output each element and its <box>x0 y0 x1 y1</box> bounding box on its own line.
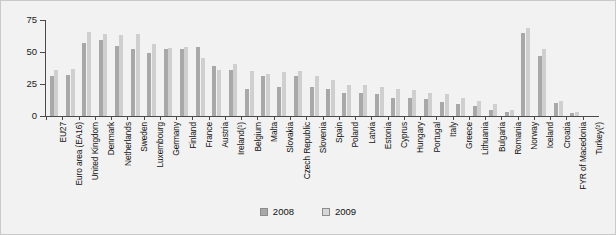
bar-2008[interactable] <box>570 113 574 116</box>
legend-label-2009: 2009 <box>335 206 356 217</box>
bar-2008[interactable] <box>82 43 86 116</box>
bar-2008[interactable] <box>391 98 395 116</box>
bar-2009[interactable] <box>477 101 481 116</box>
bar-2008[interactable] <box>521 33 525 116</box>
x-axis-category-label: France <box>204 122 214 147</box>
y-axis-tick <box>40 116 45 117</box>
x-axis-tick <box>127 116 128 120</box>
bar-2009[interactable] <box>347 85 351 116</box>
bar-2008[interactable] <box>489 110 493 116</box>
bar-2008[interactable] <box>164 49 168 116</box>
bar-2009[interactable] <box>298 71 302 116</box>
bar-2008[interactable] <box>375 94 379 116</box>
bar-2008[interactable] <box>212 66 216 116</box>
x-axis-category-label: Portugal <box>432 122 442 152</box>
bar-2008[interactable] <box>99 40 103 116</box>
bar-2008[interactable] <box>538 56 542 116</box>
bar-2009[interactable] <box>103 34 107 116</box>
bar-2009[interactable] <box>396 89 400 116</box>
bar-2009[interactable] <box>575 112 579 116</box>
y-axis-tick-label: 75 <box>1 14 37 25</box>
bar-2008[interactable] <box>131 49 135 116</box>
bar-2008[interactable] <box>473 106 477 116</box>
bar-2009[interactable] <box>266 74 270 116</box>
bar-2008[interactable] <box>294 76 298 116</box>
bar-2009[interactable] <box>201 58 205 116</box>
bar-2008[interactable] <box>440 102 444 116</box>
bar-2009[interactable] <box>445 94 449 116</box>
plot-area <box>46 20 599 116</box>
x-axis-category-label: Spain <box>334 122 344 143</box>
bar-2009[interactable] <box>526 28 530 116</box>
bar-2008[interactable] <box>66 75 70 116</box>
bar-2009[interactable] <box>233 64 237 116</box>
chart-legend: 2008 2009 <box>1 206 615 217</box>
bar-2008[interactable] <box>229 70 233 116</box>
y-axis-tick-label: 0 <box>1 110 37 121</box>
bar-2009[interactable] <box>250 71 254 116</box>
x-axis-category-label: FYR of Macedonia <box>578 122 588 190</box>
bar-2008[interactable] <box>261 76 265 116</box>
bar-2008[interactable] <box>424 99 428 116</box>
x-axis-tick <box>388 116 389 120</box>
bar-2009[interactable] <box>412 90 416 116</box>
x-axis-tick <box>339 116 340 120</box>
bar-2009[interactable] <box>510 110 514 116</box>
bar-2009[interactable] <box>54 70 58 116</box>
bar-2008[interactable] <box>115 46 119 116</box>
y-axis-tick <box>40 52 45 53</box>
bar-2008[interactable] <box>359 93 363 116</box>
x-axis-tick <box>355 116 356 120</box>
x-axis-category-label: Turkey(²) <box>594 122 604 155</box>
bar-2009[interactable] <box>380 87 384 116</box>
bar-2008[interactable] <box>505 112 509 116</box>
bar-2008[interactable] <box>326 89 330 116</box>
bar-2008[interactable] <box>310 87 314 116</box>
bar-2008[interactable] <box>147 53 151 116</box>
legend-item-2009[interactable]: 2009 <box>322 206 356 217</box>
bar-2009[interactable] <box>184 47 188 116</box>
bar-2009[interactable] <box>87 32 91 116</box>
bar-2008[interactable] <box>456 104 460 116</box>
bar-2008[interactable] <box>554 103 558 116</box>
x-axis-category-label: Finland <box>188 122 198 149</box>
x-axis-tick <box>144 116 145 120</box>
bar-2009[interactable] <box>71 69 75 116</box>
bar-2009[interactable] <box>559 101 563 116</box>
x-axis-tick <box>176 116 177 120</box>
bar-2009[interactable] <box>152 44 156 116</box>
x-axis-category-label: Luxembourg <box>155 122 165 168</box>
bar-2009[interactable] <box>363 85 367 116</box>
bar-2008[interactable] <box>50 76 54 116</box>
x-axis-tick <box>501 116 502 120</box>
bar-2008[interactable] <box>180 49 184 116</box>
bar-2009[interactable] <box>428 93 432 116</box>
bar-2009[interactable] <box>461 98 465 116</box>
bar-2009[interactable] <box>136 34 140 116</box>
y-axis-tick <box>40 20 45 21</box>
bar-2008[interactable] <box>245 89 249 116</box>
bar-2009[interactable] <box>493 104 497 116</box>
bar-2009[interactable] <box>315 76 319 116</box>
x-axis-tick <box>306 116 307 120</box>
bar-2008[interactable] <box>277 87 281 116</box>
x-axis-tick <box>257 116 258 120</box>
x-axis-category-label: EU27 <box>58 122 68 143</box>
x-axis-category-label: Estonia <box>383 122 393 149</box>
x-axis-category-label: Croatia <box>562 122 572 148</box>
legend-item-2008[interactable]: 2008 <box>260 206 294 217</box>
bar-2008[interactable] <box>342 93 346 116</box>
x-axis-tick <box>566 116 567 120</box>
bar-2008[interactable] <box>408 98 412 116</box>
bar-2009[interactable] <box>542 49 546 116</box>
bar-2008[interactable] <box>196 47 200 116</box>
x-axis-category-label: Norway <box>529 122 539 150</box>
x-axis-tick <box>95 116 96 120</box>
bar-2009[interactable] <box>168 48 172 116</box>
bar-2009[interactable] <box>331 80 335 116</box>
bar-2009[interactable] <box>119 35 123 116</box>
bar-2009[interactable] <box>282 72 286 116</box>
x-axis-tick <box>209 116 210 120</box>
bar-2009[interactable] <box>217 70 221 116</box>
legend-swatch-2009 <box>322 208 330 216</box>
